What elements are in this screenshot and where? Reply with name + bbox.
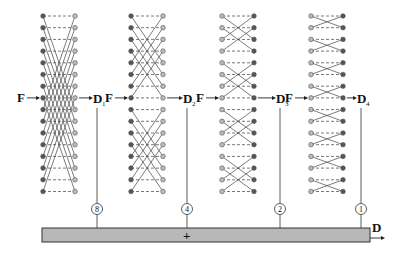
left-node	[41, 154, 46, 159]
left-node	[220, 189, 225, 194]
left-node	[309, 61, 314, 66]
right-node	[161, 166, 166, 171]
stage-2-input-label: F	[105, 90, 113, 105]
left-node	[129, 189, 134, 194]
left-node	[41, 25, 46, 30]
right-node	[252, 49, 257, 54]
left-node	[220, 96, 225, 101]
stage-1-output-label: D	[93, 91, 102, 106]
left-node	[41, 96, 46, 101]
left-node	[309, 37, 314, 42]
sum-operator: +	[183, 228, 190, 243]
right-node	[73, 96, 78, 101]
right-node	[161, 189, 166, 194]
right-node	[73, 61, 78, 66]
left-node	[129, 84, 134, 89]
right-node	[252, 84, 257, 89]
left-node	[309, 131, 314, 136]
left-node	[41, 131, 46, 136]
left-node	[220, 119, 225, 124]
left-node	[129, 142, 134, 147]
right-node	[341, 96, 346, 101]
right-node	[341, 178, 346, 183]
stage-3-input-label: F	[196, 90, 204, 105]
right-node	[73, 142, 78, 147]
stage-labels: FD18FD24FD32FD41	[17, 90, 370, 228]
stage-4-input-label: F	[285, 90, 293, 105]
arrowhead-icon	[215, 96, 219, 100]
right-node	[341, 72, 346, 77]
left-node	[41, 166, 46, 171]
left-node	[41, 37, 46, 42]
right-node	[341, 14, 346, 19]
left-node	[129, 61, 134, 66]
left-node	[220, 107, 225, 112]
left-node	[220, 61, 225, 66]
left-node	[220, 14, 225, 19]
left-node	[220, 25, 225, 30]
sum-bar	[42, 228, 370, 242]
right-node	[161, 72, 166, 77]
left-node	[309, 25, 314, 30]
left-node	[41, 14, 46, 19]
right-node	[252, 154, 257, 159]
left-node	[41, 119, 46, 124]
right-node	[161, 142, 166, 147]
weight-label: 8	[95, 205, 99, 214]
left-node	[309, 84, 314, 89]
weight-label: 1	[359, 205, 363, 214]
right-node	[73, 72, 78, 77]
left-node	[129, 166, 134, 171]
stage-2-network	[129, 14, 166, 194]
left-node	[41, 189, 46, 194]
left-node	[129, 107, 134, 112]
stage-1-input-label: F	[17, 90, 25, 105]
left-node	[129, 154, 134, 159]
left-node	[129, 25, 134, 30]
right-node	[161, 96, 166, 101]
stage-2-output-label: D	[183, 91, 192, 106]
right-node	[73, 49, 78, 54]
right-node	[73, 37, 78, 42]
arrowhead-icon	[124, 96, 128, 100]
right-node	[341, 84, 346, 89]
left-node	[220, 178, 225, 183]
right-node	[252, 96, 257, 101]
stage-1-network	[41, 14, 78, 194]
right-node	[73, 189, 78, 194]
weight-label: 4	[185, 205, 189, 214]
left-node	[309, 107, 314, 112]
right-node	[161, 61, 166, 66]
left-node	[309, 49, 314, 54]
left-node	[309, 154, 314, 159]
left-node	[309, 72, 314, 77]
right-node	[252, 37, 257, 42]
arrowhead-icon	[36, 96, 40, 100]
right-node	[161, 131, 166, 136]
right-node	[73, 178, 78, 183]
right-node	[252, 61, 257, 66]
left-node	[129, 178, 134, 183]
left-node	[309, 14, 314, 19]
right-node	[73, 25, 78, 30]
left-node	[129, 49, 134, 54]
right-node	[73, 84, 78, 89]
left-node	[220, 84, 225, 89]
right-node	[341, 142, 346, 147]
weight-label: 2	[278, 205, 282, 214]
left-node	[129, 131, 134, 136]
stage-4-output-label: D	[357, 91, 366, 106]
right-node	[161, 49, 166, 54]
right-node	[73, 154, 78, 159]
left-node	[129, 96, 134, 101]
right-node	[252, 107, 257, 112]
left-node	[41, 49, 46, 54]
left-node	[309, 178, 314, 183]
right-node	[252, 25, 257, 30]
butterfly-diagram: FD18FD24FD32FD41 + D	[0, 0, 400, 257]
sum-output-arrowhead-icon	[381, 236, 385, 240]
right-node	[341, 189, 346, 194]
arrowhead-icon	[304, 96, 308, 100]
right-node	[341, 37, 346, 42]
left-node	[309, 119, 314, 124]
